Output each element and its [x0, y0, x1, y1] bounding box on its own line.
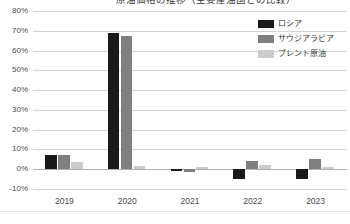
gridline — [33, 149, 347, 150]
y-axis-tick-label: 70% — [0, 27, 28, 35]
bar — [134, 166, 146, 169]
legend-label: ブレント原油 — [278, 49, 326, 58]
x-axis-tick-label: 2022 — [221, 196, 284, 206]
y-axis-tick-label: 10% — [0, 145, 28, 153]
bar — [45, 155, 57, 169]
chart-title: 原油価格の推移（主要産油国との比較） — [62, 0, 350, 6]
legend-swatch-icon — [258, 50, 274, 58]
legend-item[interactable]: ブレント原油 — [258, 47, 350, 60]
y-axis-tick-label: -10% — [0, 185, 28, 193]
gridline — [33, 90, 347, 91]
bar — [184, 169, 196, 172]
x-axis-tick-label: 2023 — [284, 196, 347, 206]
bar — [171, 169, 183, 171]
gridline — [33, 11, 347, 12]
y-axis-tick-label: 20% — [0, 126, 28, 134]
gridline — [33, 189, 347, 190]
y-axis-tick-label: 0% — [0, 165, 28, 173]
bar — [233, 169, 245, 179]
y-axis-tick-label: 80% — [0, 7, 28, 15]
legend-swatch-icon — [258, 20, 274, 28]
bar-chart: 原油価格の推移（主要産油国との比較） 80%70%60%50%40%30%20%… — [0, 0, 350, 224]
bar — [121, 36, 133, 170]
y-axis: 80%70%60%50%40%30%20%10%0%-10% — [0, 11, 30, 189]
bar — [309, 159, 321, 169]
y-axis-tick-label: 30% — [0, 106, 28, 114]
bar — [322, 167, 334, 169]
x-axis-tick-label: 2019 — [33, 196, 96, 206]
gridline — [33, 110, 347, 111]
y-axis-tick-label: 60% — [0, 47, 28, 55]
bar — [108, 33, 120, 169]
gridline — [33, 130, 347, 131]
legend-item[interactable]: サウジアラビア — [258, 32, 350, 45]
legend-label: ロシア — [278, 19, 302, 28]
bottom-divider — [0, 211, 350, 212]
y-axis-tick-label: 40% — [0, 86, 28, 94]
bar — [259, 165, 271, 169]
y-axis-tick-label: 50% — [0, 66, 28, 74]
x-axis-tick-label: 2021 — [159, 196, 222, 206]
bar — [71, 162, 83, 169]
chart-legend: ロシアサウジアラビアブレント原油 — [258, 17, 350, 62]
bar — [196, 167, 208, 169]
legend-swatch-icon — [258, 35, 274, 43]
bar — [296, 169, 308, 179]
bar — [58, 155, 70, 169]
gridline — [33, 70, 347, 71]
x-axis: 20192020202120222023 — [33, 196, 347, 210]
bar — [246, 161, 258, 169]
legend-item[interactable]: ロシア — [258, 17, 350, 30]
legend-label: サウジアラビア — [278, 34, 334, 43]
x-axis-tick-label: 2020 — [96, 196, 159, 206]
